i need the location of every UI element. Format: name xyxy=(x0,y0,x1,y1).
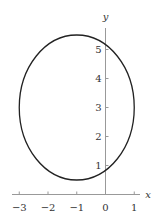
y-tick-label: 4 xyxy=(95,73,101,84)
tick-labels: −3−2−10112345xy xyxy=(12,11,151,213)
curves xyxy=(19,35,134,180)
y-tick-label: 2 xyxy=(95,131,101,142)
y-axis-label: y xyxy=(102,11,109,22)
y-tick-label: 1 xyxy=(95,160,101,171)
x-tick-label: 1 xyxy=(131,202,137,213)
ellipse-chart: −3−2−10112345xy xyxy=(0,0,161,222)
x-tick-label: 0 xyxy=(102,202,108,213)
x-axis-label: x xyxy=(145,189,151,200)
x-tick-label: −3 xyxy=(12,202,27,213)
x-tick-label: −1 xyxy=(69,202,84,213)
ellipse-curve xyxy=(19,35,134,180)
y-tick-label: 5 xyxy=(95,44,101,55)
ticks xyxy=(19,50,134,195)
y-tick-label: 3 xyxy=(95,102,101,113)
x-tick-label: −2 xyxy=(41,202,56,213)
axes xyxy=(12,28,140,195)
